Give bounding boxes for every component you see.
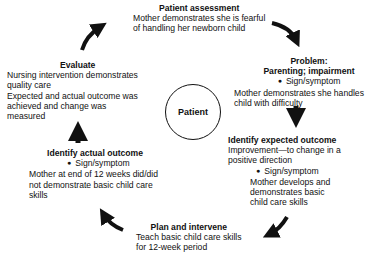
arrow-up-left-icon: [104, 215, 123, 230]
step-text: quality care: [7, 80, 138, 90]
arrow-down-left-icon: [270, 217, 287, 234]
step-detail: child care skills: [228, 197, 341, 207]
step-text: measured: [7, 111, 138, 121]
step-text: Teach basic child care skills: [136, 232, 242, 242]
step-title: Patient assessment: [133, 3, 265, 13]
step-detail: demonstrates basic: [228, 187, 341, 197]
arrow-up-right-icon: [82, 27, 100, 50]
step-plan-intervene: Plan and intervene Teach basic child car…: [136, 222, 242, 253]
step-problem: Problem: Parenting; impairment Sign/symp…: [234, 56, 384, 108]
step-text: not demonstrate basic child care: [29, 180, 158, 190]
step-text: of handling her newborn child: [133, 23, 265, 33]
step-title: Problem:: [234, 56, 384, 66]
step-text: positive direction: [228, 155, 341, 165]
step-evaluate: Evaluate Nursing intervention demonstrat…: [7, 60, 138, 121]
step-expected-outcome: Identify expected outcome Improvement—to…: [228, 135, 341, 207]
step-text: child with difficulty: [234, 98, 384, 108]
step-text: Mother demonstrates she handles: [234, 88, 384, 98]
step-text: Nursing intervention demonstrates: [7, 70, 138, 80]
arrow-down-right-icon: [272, 23, 296, 40]
step-subtitle: Parenting; impairment: [234, 66, 384, 76]
step-text: Mother at end of 12 weeks did/did: [29, 169, 158, 179]
step-title: Identify actual outcome: [29, 148, 158, 158]
step-actual-outcome: Identify actual outcome Sign/symptom Mot…: [29, 148, 158, 200]
step-text: for 12-week period: [136, 242, 242, 252]
step-text: Improvement—to change in a: [228, 145, 341, 155]
step-text: Mother demonstrates she is fearful: [133, 13, 265, 23]
patient-circle: Patient: [165, 84, 221, 140]
step-text: achieved and change was: [7, 101, 138, 111]
step-text: Expected and actual outcome was: [7, 91, 138, 101]
bullet-sign-symptom: Sign/symptom: [234, 76, 384, 87]
patient-label: Patient: [178, 107, 208, 117]
step-title: Evaluate: [7, 60, 138, 70]
step-patient-assessment: Patient assessment Mother demonstrates s…: [133, 3, 265, 34]
step-title: Identify expected outcome: [228, 135, 341, 145]
step-detail: Mother develops and: [228, 177, 341, 187]
bullet-sign-symptom: Sign/symptom: [228, 166, 341, 177]
bullet-sign-symptom: Sign/symptom: [29, 158, 158, 169]
step-text: skills: [29, 190, 158, 200]
step-title: Plan and intervene: [136, 222, 242, 232]
